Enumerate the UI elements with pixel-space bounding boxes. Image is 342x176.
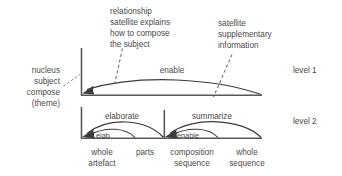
base-label-2-line2: sequence xyxy=(174,159,210,168)
diagram-canvas: relationship satellite explains how to c… xyxy=(0,0,342,176)
nucleus-annotation-line4: (theme) xyxy=(32,99,60,108)
base-label-parts: parts xyxy=(136,148,154,157)
base-label-3-line1: whole xyxy=(235,148,258,157)
diagram-svg: relationship satellite explains how to c… xyxy=(0,0,342,176)
level-2-elaborate-arc xyxy=(82,122,163,138)
relationship-annotation-line3: how to compose xyxy=(110,29,170,38)
relation-label-elaborate: elaborate xyxy=(105,112,140,121)
base-label-composition-sequence: composition sequence xyxy=(170,148,214,168)
enable-arrowhead xyxy=(82,86,94,95)
relation-label-enable-level1: enable xyxy=(160,66,185,75)
nucleus-leader-line xyxy=(64,75,81,87)
satellite-annotation: satellite supplementary information xyxy=(218,19,273,50)
satellite-leader-line xyxy=(214,55,233,98)
satellite-annotation-line2: supplementary xyxy=(218,30,273,39)
relation-label-enable-level2: enable xyxy=(177,131,199,140)
relation-label-summarize: summarize xyxy=(192,112,232,121)
relationship-annotation-line1: relationship xyxy=(110,7,152,16)
level-2-label: level 2 xyxy=(293,117,317,126)
nucleus-annotation: nucleus subject compose (theme) xyxy=(27,66,61,108)
base-label-0-line2: artefact xyxy=(88,159,116,168)
nucleus-annotation-line2: subject xyxy=(34,77,61,86)
relationship-annotation-line4: the subject xyxy=(110,40,150,49)
relationship-annotation-line2: satellite explains xyxy=(110,18,170,27)
relationship-annotation: relationship satellite explains how to c… xyxy=(110,7,170,49)
satellite-annotation-line3: information xyxy=(218,41,259,50)
base-label-whole-sequence: whole sequence xyxy=(229,148,265,168)
base-label-3-line2: sequence xyxy=(229,159,265,168)
relationship-leader-line xyxy=(115,49,123,85)
base-label-1-line1: parts xyxy=(136,148,154,157)
enable-arc-path xyxy=(87,80,261,95)
base-label-whole-artefact: whole artefact xyxy=(88,148,116,168)
nucleus-annotation-line1: nucleus xyxy=(32,66,60,75)
level-1-enable-arc xyxy=(82,80,261,95)
level-1-label: level 1 xyxy=(293,66,317,75)
base-label-2-line1: composition xyxy=(170,148,214,157)
nucleus-annotation-line3: compose xyxy=(27,88,61,97)
base-label-0-line1: whole xyxy=(90,148,113,157)
relation-label-elab: elab xyxy=(96,131,110,140)
satellite-annotation-line1: satellite xyxy=(218,19,246,28)
